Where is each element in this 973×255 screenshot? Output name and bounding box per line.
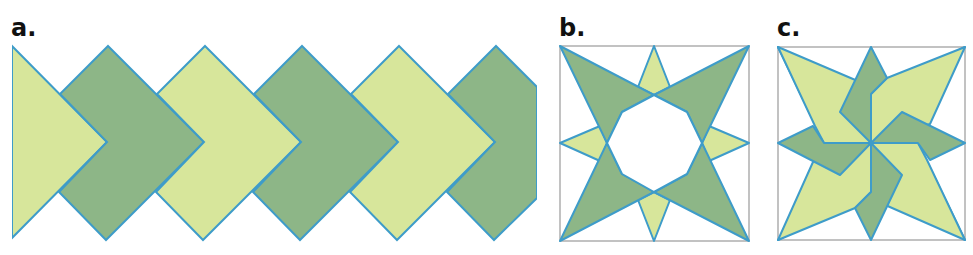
pinwheel-center-dot [869,141,874,146]
panel-a-chevron-band [12,46,537,240]
panel-c-pinwheel-block [778,47,965,240]
quilt-diagrams [0,0,973,255]
panel-b-star-block [560,46,749,241]
